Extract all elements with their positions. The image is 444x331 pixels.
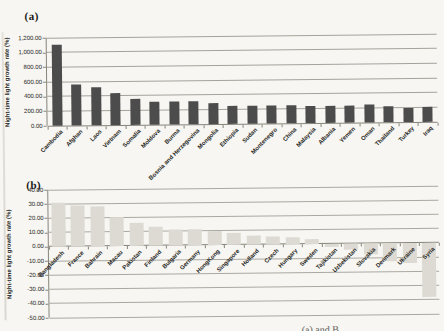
gridline [49, 285, 439, 290]
bar [286, 238, 300, 245]
x-axis-tick [320, 123, 321, 126]
y-tick-label: 200.00 [24, 108, 42, 115]
bar [403, 108, 413, 122]
bar [90, 206, 104, 246]
scanned-figure-sheet: (a) Night-time light growth rate (%) 1,2… [0, 0, 444, 331]
y-tick-label: 0.00 [31, 122, 43, 129]
x-axis-tick [360, 244, 361, 247]
bar [188, 229, 202, 245]
bar [228, 106, 238, 124]
gridline [47, 107, 437, 112]
x-axis-tick [262, 124, 263, 127]
bar [168, 229, 182, 245]
y-tick-label: 0.00 [32, 243, 44, 250]
gridline [49, 228, 439, 233]
y-tick-label: 600.00 [24, 78, 42, 85]
gridline [49, 214, 439, 219]
bar [267, 106, 277, 124]
gridline [47, 92, 437, 97]
x-axis-tick [87, 247, 88, 250]
x-axis-tick [380, 244, 381, 247]
x-axis-tick [184, 125, 185, 128]
bar [247, 105, 257, 123]
x-axis-tick [47, 126, 48, 129]
y-tick-label: 1,200.00 [18, 34, 41, 41]
x-category-label: Somalia [121, 128, 142, 149]
x-axis-tick [438, 243, 439, 246]
bar [286, 105, 296, 123]
x-axis-tick [107, 247, 108, 250]
x-category-label: Iraq [422, 125, 435, 138]
bar [325, 106, 335, 123]
x-category-label: Moldova [140, 128, 162, 150]
bar [110, 217, 124, 246]
x-axis-tick [301, 124, 302, 127]
x-axis-tick [164, 125, 165, 128]
y-tick-label: -10.00 [27, 257, 44, 264]
x-axis-tick [282, 245, 283, 248]
panel-label-b: (b) [26, 179, 41, 191]
x-axis-tick [106, 126, 107, 129]
x-category-label: Thailand [374, 125, 396, 148]
plot-area: 40.0030.0020.0010.000.00-10.00-20.00-30.… [48, 186, 439, 318]
y-tick-label: 1,000.00 [18, 49, 41, 56]
x-axis-tick [398, 123, 399, 126]
x-axis-tick [125, 126, 126, 129]
caption-fragment: (a) and B [302, 324, 339, 331]
x-axis-tick [399, 244, 400, 247]
x-axis-tick [224, 245, 225, 248]
bar [325, 244, 339, 247]
y-axis-label: Night-time light growth rate (%) [4, 38, 11, 127]
y-tick-label: 20.00 [28, 215, 43, 222]
bar [150, 102, 160, 125]
bar [207, 231, 221, 245]
y-tick-label: 800.00 [24, 64, 42, 71]
bar [364, 104, 374, 122]
gridline [47, 63, 437, 68]
y-tick-label: 10.00 [29, 229, 44, 236]
x-axis-tick [223, 124, 224, 127]
x-axis-tick [204, 246, 205, 249]
x-axis-tick [302, 245, 303, 248]
bar [246, 235, 260, 244]
x-category-label: Cambodia [39, 129, 64, 155]
x-axis-tick [379, 123, 380, 126]
x-axis-tick [419, 243, 420, 246]
x-category-label: China [282, 126, 299, 143]
bar [208, 103, 218, 124]
gridline [48, 185, 438, 190]
x-category-label: France [66, 249, 85, 268]
x-axis-tick [418, 122, 419, 125]
x-axis-tick [437, 122, 438, 125]
y-axis-label: Night-time light growth rate (%) [5, 210, 12, 299]
bar [345, 105, 355, 123]
y-tick-label: -30.00 [27, 286, 44, 293]
chart-a-nighttime-light-growth: (a) Night-time light growth rate (%) 1,2… [0, 0, 444, 167]
gridline [49, 299, 439, 304]
bar [71, 85, 81, 126]
x-axis-tick [68, 247, 69, 250]
y-axis-tick [46, 318, 49, 319]
bar [189, 101, 199, 124]
x-category-label: Sudan [242, 127, 260, 145]
bar [130, 99, 140, 125]
bar [149, 227, 163, 246]
gridline [48, 199, 438, 204]
x-category-label: Czech [263, 247, 280, 265]
gridline [49, 271, 439, 276]
x-axis-tick [281, 124, 282, 127]
x-axis-tick [340, 123, 341, 126]
bar [169, 102, 179, 125]
bar [305, 239, 319, 244]
bar [51, 202, 65, 246]
bar [306, 106, 316, 123]
x-axis-tick [341, 244, 342, 247]
x-axis-tick [359, 123, 360, 126]
plot-area: 1,200.001,000.00800.00600.00400.00200.00… [47, 34, 438, 126]
x-axis-tick [263, 245, 264, 248]
gridline [47, 77, 437, 82]
bar [71, 205, 85, 246]
bar [384, 106, 394, 123]
panel-label-a: (a) [24, 10, 38, 22]
bar [110, 93, 120, 125]
